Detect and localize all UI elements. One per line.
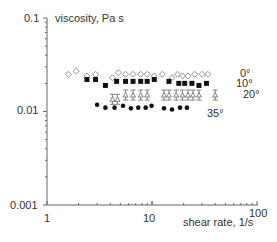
y-tick-0.01: 0.01: [17, 104, 38, 116]
data-point: [138, 71, 144, 77]
data-point: [138, 79, 143, 84]
data-point: [73, 68, 79, 74]
data-point: [116, 70, 122, 76]
data-point: [199, 71, 205, 77]
data-point: [65, 71, 71, 77]
viscosity-chart: 0.1 0.01 0.001 1 10 100 viscosity, Pa s …: [0, 0, 277, 242]
data-point: [178, 105, 183, 110]
y-axis-title: viscosity, Pa s: [55, 12, 124, 24]
data-point: [138, 90, 143, 100]
data-point: [123, 90, 128, 100]
series-label-35: 35°: [207, 107, 224, 119]
data-point: [136, 105, 141, 110]
data-point: [103, 83, 108, 88]
data-point: [123, 71, 129, 77]
x-tick-1: 1: [44, 212, 50, 224]
data-point: [149, 104, 154, 109]
data-point: [161, 90, 166, 100]
y-tick-0.1: 0.1: [24, 12, 39, 24]
data-point: [185, 73, 191, 79]
data-point: [145, 79, 150, 84]
data-point: [174, 90, 179, 100]
data-point: [185, 105, 190, 110]
data-point: [123, 79, 128, 84]
data-point: [152, 77, 157, 82]
data-point: [176, 81, 181, 86]
data-point: [182, 81, 187, 86]
data-point: [205, 71, 211, 77]
data-point: [180, 90, 185, 100]
y-tick-0.001: 0.001: [10, 199, 38, 211]
data-point: [185, 90, 190, 100]
data-point: [84, 77, 89, 82]
data-point: [170, 107, 175, 112]
data-point: [110, 94, 115, 104]
data-point: [159, 71, 165, 77]
data-point: [192, 71, 198, 77]
data-point: [190, 90, 195, 100]
data-point: [143, 105, 148, 110]
x-axis: [47, 201, 258, 205]
data-point: [162, 106, 167, 111]
data-point: [166, 90, 171, 100]
data-point: [93, 77, 98, 82]
data-point: [121, 104, 126, 109]
x-tick-10: 10: [143, 212, 155, 224]
data-point: [213, 90, 218, 100]
data-point: [189, 81, 194, 86]
data-point: [95, 102, 100, 107]
data-points: [65, 68, 217, 112]
data-point: [112, 105, 117, 110]
x-axis-title: shear rate, 1/s: [183, 216, 254, 228]
data-point: [129, 106, 134, 111]
data-point: [196, 90, 201, 100]
data-point: [130, 71, 136, 77]
data-point: [144, 71, 150, 77]
data-point: [196, 83, 201, 88]
data-point: [204, 81, 209, 86]
y-axis: [43, 18, 47, 205]
data-point: [166, 79, 171, 84]
data-point: [115, 94, 120, 104]
data-point: [131, 79, 136, 84]
data-point: [114, 79, 119, 84]
data-point: [93, 71, 99, 77]
data-point: [103, 105, 108, 110]
series-label-20: 20°: [243, 88, 260, 100]
data-point: [131, 90, 136, 100]
data-point: [145, 90, 150, 100]
